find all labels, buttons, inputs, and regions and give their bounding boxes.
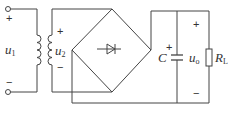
diode-icon bbox=[97, 44, 121, 54]
input-minus-sign: − bbox=[6, 77, 12, 88]
secondary-minus-sign: − bbox=[57, 62, 63, 73]
primary-coil bbox=[37, 35, 41, 65]
bridge-rectifier-diagram: + − u1 + − u2 + C + − uo RL bbox=[0, 0, 229, 113]
input-plus-sign: + bbox=[6, 13, 12, 24]
uo-label: uo bbox=[189, 51, 200, 66]
u1-label: u1 bbox=[5, 43, 16, 58]
secondary-plus-sign: + bbox=[57, 26, 63, 37]
input-terminal-top bbox=[6, 7, 11, 12]
secondary-coil bbox=[48, 35, 52, 65]
load-resistor bbox=[206, 49, 212, 66]
bridge-rectifier bbox=[72, 9, 151, 92]
u2-label: u2 bbox=[55, 44, 66, 59]
input-terminal-bottom bbox=[6, 90, 11, 95]
output-minus-sign: − bbox=[193, 88, 199, 99]
output-plus-sign: + bbox=[193, 19, 199, 30]
capacitor-label: C bbox=[158, 51, 167, 64]
output-top-rail bbox=[151, 11, 209, 50]
primary-wire-bottom bbox=[11, 65, 38, 92]
rl-label: RL bbox=[215, 51, 228, 66]
primary-wire-top bbox=[11, 9, 38, 35]
